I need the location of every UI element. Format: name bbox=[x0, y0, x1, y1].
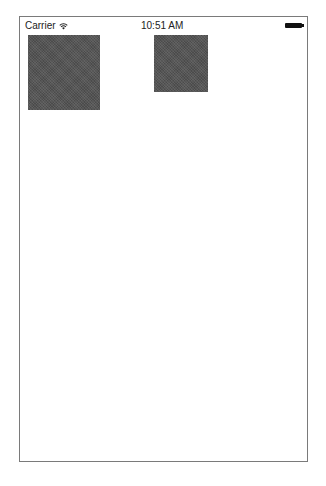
status-time: 10:51 AM bbox=[141, 20, 183, 31]
carrier-indicator: Carrier bbox=[25, 20, 68, 31]
wifi-icon bbox=[59, 22, 68, 30]
square-view-2 bbox=[154, 35, 208, 92]
phone-screen: Carrier 10:51 AM bbox=[19, 16, 308, 462]
square-view-1 bbox=[28, 35, 100, 110]
battery-full-icon bbox=[285, 23, 302, 28]
status-bar: Carrier 10:51 AM bbox=[20, 17, 307, 35]
carrier-label: Carrier bbox=[25, 20, 56, 31]
